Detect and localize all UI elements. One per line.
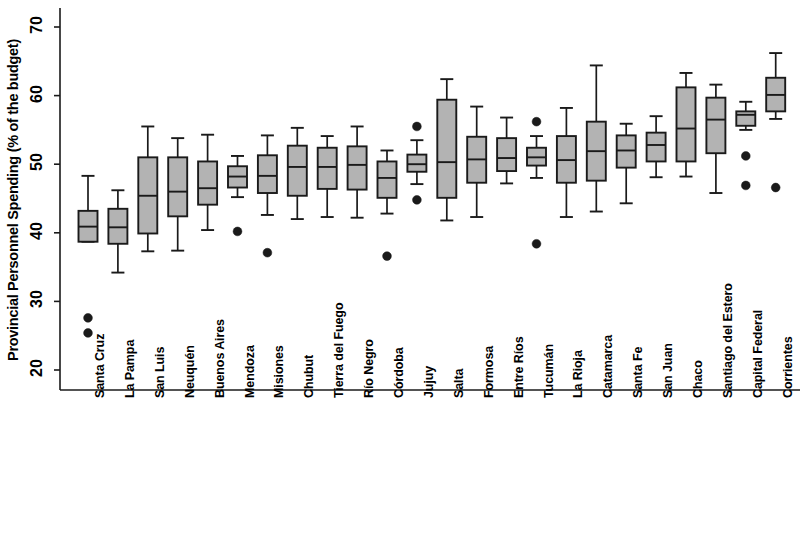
- box-plot-item: [677, 73, 696, 177]
- box-plot-item: [617, 124, 636, 204]
- box-iqr: [407, 155, 426, 172]
- outlier-point: [383, 252, 392, 261]
- y-tick-label: 60: [22, 85, 52, 103]
- x-tick-label: Jujuy: [422, 366, 436, 398]
- x-tick-label: Santa Cruz: [93, 334, 107, 398]
- x-tick-label: Santiago del Estero: [721, 283, 735, 398]
- box-plot-item: [407, 122, 426, 204]
- outlier-point: [84, 313, 93, 322]
- outlier-point: [84, 329, 93, 338]
- outlier-point: [741, 152, 750, 161]
- outlier-point: [233, 227, 242, 236]
- x-tick-label: Capital Federal: [751, 310, 765, 398]
- box-plot-item: [736, 102, 755, 190]
- box-plot-item: [766, 53, 785, 192]
- box-plot-item: [288, 128, 307, 219]
- box-iqr: [288, 146, 307, 196]
- outlier-point: [413, 195, 422, 204]
- box-plot-item: [497, 118, 516, 184]
- box-iqr: [706, 98, 725, 154]
- box-plot-item: [437, 79, 456, 220]
- y-tick-label: 40: [22, 222, 52, 240]
- x-tick-label: Corrientes: [781, 336, 795, 398]
- y-tick-label: 50: [22, 153, 52, 171]
- box-plot-item: [378, 150, 397, 260]
- outlier-point: [741, 181, 750, 190]
- outlier-point: [532, 239, 541, 248]
- x-tick-label: Neuquén: [183, 345, 197, 398]
- box-iqr: [437, 100, 456, 198]
- x-tick-label: Mendoza: [243, 345, 257, 398]
- x-tick-label: Tierra del Fuego: [332, 303, 346, 398]
- y-ticks: [54, 27, 60, 370]
- x-tick-label: Tucumán: [542, 344, 556, 398]
- x-tick-label: Santa Fe: [631, 347, 645, 398]
- outlier-point: [771, 183, 780, 192]
- box-plot-item: [647, 116, 666, 177]
- box-plot-item: [587, 65, 606, 211]
- box-iqr: [258, 155, 277, 193]
- box-plot-item: [228, 156, 247, 236]
- x-tick-label: Chaco: [691, 360, 705, 398]
- box-plot-item: [527, 117, 546, 248]
- x-tick-label: La Pampa: [123, 340, 137, 398]
- y-tick-label: 20: [22, 359, 52, 377]
- y-tick-label-text: 30: [28, 290, 46, 308]
- box-plot-item: [706, 85, 725, 193]
- box-plot-item: [108, 190, 127, 272]
- x-tick-label: Misiones: [272, 345, 286, 398]
- box-plot-item: [557, 108, 576, 217]
- box-plot-item: [168, 138, 187, 251]
- x-tick-label: San Juan: [661, 343, 675, 398]
- box-iqr: [168, 157, 187, 216]
- y-tick-label-text: 50: [28, 153, 46, 171]
- y-tick-label-text: 60: [28, 85, 46, 103]
- box-plot-item: [79, 176, 98, 337]
- x-tick-label: Salta: [452, 369, 466, 398]
- box-iqr: [617, 135, 636, 167]
- boxes: [79, 53, 786, 337]
- x-tick-label: Entre Ríos: [512, 336, 526, 398]
- box-iqr: [348, 146, 367, 189]
- x-tick-label: Catamarca: [601, 335, 615, 398]
- box-iqr: [378, 161, 397, 197]
- x-tick-label: Río Negro: [362, 339, 376, 398]
- box-iqr: [647, 133, 666, 162]
- y-tick-label-text: 40: [28, 222, 46, 240]
- y-tick-label: 30: [22, 290, 52, 308]
- y-tick-label-text: 70: [28, 16, 46, 34]
- box-iqr: [736, 111, 755, 125]
- outlier-point: [532, 117, 541, 126]
- box-iqr: [198, 161, 217, 204]
- box-plot-item: [467, 107, 486, 217]
- box-plot-item: [198, 135, 217, 230]
- boxplot-figure: Provincial Personnel Spending (% of the …: [0, 0, 807, 543]
- x-tick-label: Formosa: [482, 346, 496, 398]
- x-tick-label: Buenos Aires: [213, 319, 227, 398]
- plot-area: [0, 0, 807, 543]
- box-plot-item: [258, 135, 277, 257]
- y-tick-label-text: 20: [28, 359, 46, 377]
- box-plot-item: [138, 126, 157, 251]
- box-plot-item: [348, 126, 367, 217]
- box-iqr: [497, 138, 516, 171]
- box-plot-item: [318, 136, 337, 217]
- box-iqr: [318, 148, 337, 189]
- x-tick-label: Chubut: [302, 355, 316, 398]
- x-tick-label: La Rioja: [571, 350, 585, 398]
- x-tick-label: San Luis: [153, 347, 167, 398]
- box-iqr: [677, 87, 696, 161]
- outlier-point: [263, 248, 272, 257]
- x-tick-label: Córdoba: [392, 347, 406, 398]
- box-iqr: [108, 209, 127, 244]
- y-tick-label: 70: [22, 16, 52, 34]
- outlier-point: [413, 122, 422, 131]
